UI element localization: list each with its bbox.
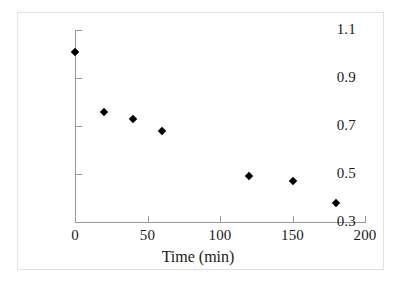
- data-point: [129, 115, 137, 123]
- data-point: [288, 177, 296, 185]
- y-tick-mark: [76, 222, 82, 223]
- data-point: [71, 47, 79, 55]
- x-tick-label: 50: [118, 228, 178, 243]
- x-axis-title: Time (min): [0, 248, 396, 266]
- x-tick-label: 200: [335, 228, 395, 243]
- x-tick-mark: [293, 216, 294, 222]
- data-point: [245, 172, 253, 180]
- data-point: [332, 199, 340, 207]
- x-axis-line: [75, 222, 366, 223]
- y-tick-label: 0.5: [337, 166, 356, 181]
- x-tick-label: 150: [263, 228, 323, 243]
- x-tick-label: 0: [45, 228, 105, 243]
- y-tick-mark: [76, 78, 82, 79]
- x-tick-mark: [365, 216, 366, 222]
- x-tick-label: 100: [190, 228, 250, 243]
- x-tick-mark: [220, 216, 221, 222]
- chart-figure: [TNT] / [TNT]0 Time (min) 0.30.50.70.91.…: [0, 0, 396, 286]
- y-tick-mark: [76, 126, 82, 127]
- y-tick-mark: [76, 174, 82, 175]
- y-tick-label: 0.7: [337, 118, 356, 133]
- y-tick-mark: [76, 30, 82, 31]
- y-tick-label: 0.9: [337, 70, 356, 85]
- data-point: [158, 127, 166, 135]
- data-point: [100, 107, 108, 115]
- x-tick-mark: [75, 216, 76, 222]
- x-tick-mark: [148, 216, 149, 222]
- plot-area: 0.30.50.70.91.1 050100150200: [75, 30, 365, 222]
- y-tick-label: 1.1: [337, 22, 356, 37]
